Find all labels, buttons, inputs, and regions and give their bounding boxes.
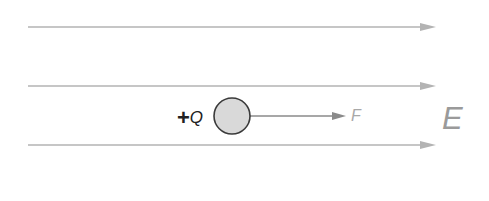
diagram-canvas [0, 0, 489, 201]
force-label: F [351, 108, 361, 124]
arrowhead-icon [332, 112, 346, 120]
arrowhead-icon [420, 82, 436, 90]
force-arrow [250, 112, 346, 120]
arrowhead-icon [420, 141, 436, 149]
field-line-middle [28, 82, 436, 90]
arrowhead-icon [420, 23, 436, 31]
charge-symbol: Q [190, 108, 203, 127]
charge-sign: + [177, 105, 190, 130]
field-line-top [28, 23, 436, 31]
charge-label: +Q [177, 107, 203, 129]
field-label: E [442, 103, 463, 134]
field-line-bottom [28, 141, 436, 149]
charge-circle [214, 98, 250, 134]
